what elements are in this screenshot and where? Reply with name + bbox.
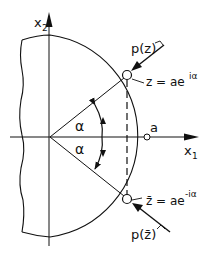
point-zbar (123, 195, 132, 204)
zbar-label: z̄ = ae (146, 194, 185, 208)
zbar-leader (132, 198, 142, 200)
zbar-exponent: -iα (185, 189, 197, 199)
angle-label-lower: α (75, 141, 84, 157)
point-z (123, 71, 132, 80)
x2-axis-label: x (34, 15, 42, 30)
x1-arrow-icon (184, 134, 199, 141)
load-pzbar-arrowhead-icon (132, 203, 143, 212)
load-pz-arrowhead-icon (131, 61, 142, 71)
half-disc-region (20, 35, 138, 237)
load-pzbar-label: p(z̄) (131, 227, 156, 242)
radius-label: a (150, 120, 158, 135)
x1-axis: x 1 (10, 134, 199, 162)
radius-to-z (50, 78, 124, 137)
load-pz-label: p(z) (131, 41, 156, 56)
radius-to-zbar (50, 137, 124, 196)
x2-axis: x 2 (34, 12, 53, 246)
x1-axis-label: x (184, 143, 192, 158)
z-exponent: iα (189, 71, 198, 81)
x2-axis-subscript: 2 (42, 23, 48, 33)
wavy-cut-edge (20, 40, 24, 232)
angle-label-upper: α (75, 118, 84, 134)
z-leader (132, 79, 144, 83)
x1-axis-subscript: 1 (192, 151, 198, 161)
diagram-canvas: x 2 x 1 α α a z = ae iα p(z) z̄ = ae -iα… (0, 0, 212, 256)
z-label: z = ae (146, 75, 185, 89)
